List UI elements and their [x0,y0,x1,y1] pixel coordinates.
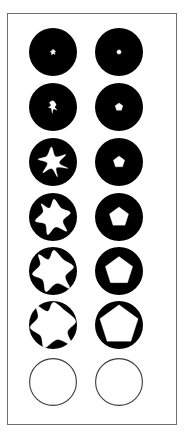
shape-cell-r6-irregular [22,296,84,354]
shape-cell-r5-regular [88,242,150,300]
empty-circle-outline [96,359,143,406]
inner-white-shape [117,50,121,54]
shape-cell-r6-regular [88,296,150,354]
shape-cell-r1-regular [88,23,150,81]
shape-cell-r1-irregular [22,23,84,81]
shape-cell-r4-regular [88,188,150,246]
shape-cell-graphic [88,296,150,354]
shape-cell-r7-regular [88,353,150,411]
shape-cell-graphic [88,353,150,411]
shape-cell-r3-regular [88,133,150,191]
shape-cell-r3-irregular [22,133,84,191]
shape-cell-graphic [88,78,150,136]
shape-cell-graphic [22,133,84,191]
shape-cell-r7-irregular [22,353,84,411]
cell-grid [8,14,178,426]
shape-cell-r4-irregular [22,188,84,246]
shape-cell-graphic [22,353,84,411]
panel-frame [7,13,177,425]
shape-cell-r2-regular [88,78,150,136]
shape-cell-graphic [88,242,150,300]
shape-cell-graphic [22,23,84,81]
shape-cell-graphic [22,242,84,300]
empty-circle-outline [30,359,77,406]
shape-cell-graphic [88,188,150,246]
shape-cell-graphic [22,188,84,246]
shape-cell-graphic [22,296,84,354]
shape-cell-graphic [88,133,150,191]
figure-root: Shape growth series [0,0,184,440]
shape-cell-r5-irregular [22,242,84,300]
shape-cell-r2-irregular [22,78,84,136]
shape-cell-graphic [22,78,84,136]
shape-cell-graphic [88,23,150,81]
